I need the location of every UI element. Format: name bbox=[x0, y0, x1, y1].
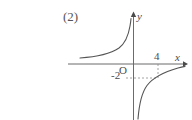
problem-number-label: (2) bbox=[63, 10, 78, 23]
y-axis-label: y bbox=[137, 11, 142, 22]
y-tick-label-negative-2: -2 bbox=[111, 70, 120, 81]
graph-canvas bbox=[0, 0, 192, 120]
x-axis-label: x bbox=[175, 52, 180, 63]
curve-lower-right-branch bbox=[138, 66, 185, 119]
origin-label: O bbox=[119, 65, 127, 76]
x-axis-arrowhead bbox=[183, 61, 188, 67]
hyperbola-figure: (2) y x O 4 -2 bbox=[0, 0, 192, 120]
x-tick-label-4: 4 bbox=[154, 51, 160, 62]
curve-upper-left-branch bbox=[80, 19, 131, 59]
y-axis-arrowhead bbox=[131, 12, 136, 18]
